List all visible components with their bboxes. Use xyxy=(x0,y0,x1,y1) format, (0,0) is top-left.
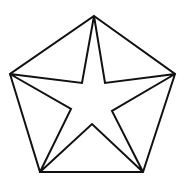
pentagon-star-diagram xyxy=(0,0,186,182)
outer-pentagon xyxy=(10,16,175,172)
